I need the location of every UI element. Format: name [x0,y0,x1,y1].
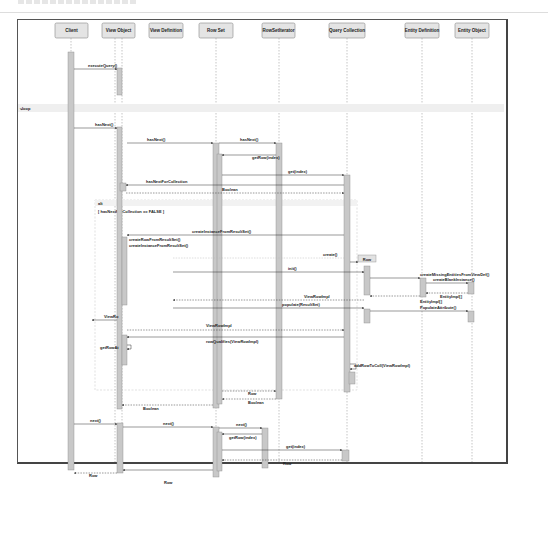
msg-row-return: Row [248,391,257,396]
svg-text:View Object: View Object [106,28,132,33]
msg-init: init() [288,266,297,271]
lifeline-client[interactable]: Client [55,23,88,38]
sequence-diagram: Client View Object View Definition Row S… [0,0,548,535]
msg-create-row: createRowFromResultSet() [129,237,181,242]
msg-next-client: next() [90,418,102,423]
msg-entityimpl-return-2: EntityImpl[] [420,299,443,304]
msg-get-row-2: getRow(index) [229,435,257,440]
svg-text:View Definition: View Definition [150,28,182,33]
lifeline-lines [71,38,472,462]
msg-populate-attribute: PopulateAttribute() [420,305,457,310]
lifeline-rowset-iterator[interactable]: RowSetIterator [262,23,295,38]
msg-entityimpl-return: EntityImpl[] [440,294,463,299]
msg-create-instance: createInstanceFromResultSet() [192,229,252,234]
msg-has-next: hasNext() [95,122,114,127]
msg-populate: populate(ResultSet) [282,302,320,307]
loop-label: loop [22,106,31,111]
msg-get-row-at: getRowAt [100,345,119,350]
msg-viewrowimpl-2: ViewRowImpl [206,323,232,328]
msg-next-rowset: next() [236,422,248,427]
msg-next-vo: next() [163,421,175,426]
msg-boolean-return: Boolean [248,400,264,405]
msg-get-index: get(index) [288,169,308,174]
message-labels: executeQuery() hasNext() hasNext() hasNe… [88,63,490,485]
msg-row-return-4: Row [89,473,98,478]
loop-fragment: loop ⤷ [18,104,504,112]
lifeline-entity-object[interactable]: Entity Object [455,23,489,38]
msg-boolean-return-2: Boolean [143,406,159,411]
msg-get-index-2: get(index) [286,444,306,449]
lifeline-row-set[interactable]: Row Set [199,23,233,38]
svg-text:RowSetIterator: RowSetIterator [262,28,294,33]
row-object: Row [358,255,376,262]
alt-label: alt [98,201,103,206]
msg-has-next-rowset: hasNext() [147,137,166,142]
msg-execute-query: executeQuery() [88,63,118,68]
svg-text:Entity Object: Entity Object [458,28,486,33]
svg-text:Query Collection: Query Collection [329,28,365,33]
alt-guard: [ hasNextForCollection == FALSE ] [98,209,165,214]
msg-row-return-2: Row [283,461,292,466]
msg-create-instance-self: createInstanceFromResultSet() [129,243,189,248]
lifeline-query-collection[interactable]: Query Collection [329,23,365,38]
svg-text:Row Set: Row Set [207,28,225,33]
msg-add-row-to-coll: addRowToColl(ViewRowImpl) [354,363,411,368]
msg-create-blank-instance: createBlankInstance() [433,277,475,282]
msg-has-next-iterator: hasNext() [240,137,259,142]
msg-create: create() [323,252,338,257]
msg-get-row: getRow(index) [252,155,280,160]
msg-has-next-for-collection: hasNextForCollection [146,179,188,184]
lifeline-view-definition[interactable]: View Definition [149,23,183,38]
msg-row-return-3: Row [164,480,173,485]
activation-bars [68,52,474,477]
msg-boolean: Boolean [222,187,238,192]
msg-viewrowimpl: ViewRowImpl [304,294,330,299]
svg-text:Entity Definition: Entity Definition [405,28,440,33]
lifeline-entity-definition[interactable]: Entity Definition [405,23,440,38]
msg-viewro: ViewRo [104,314,119,319]
lifeline-view-object[interactable]: View Object [102,23,135,38]
svg-text:Client: Client [65,28,78,33]
svg-text:Row: Row [363,257,372,262]
msg-row-qualifies: rowQualifies(ViewRowImpl) [206,339,259,344]
lifeline-headers: Client View Object View Definition Row S… [55,23,489,38]
message-lines [74,69,468,473]
